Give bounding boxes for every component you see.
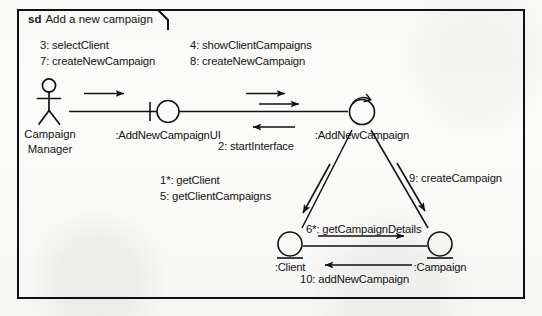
message-label-7: 7: createNewCampaign	[40, 53, 155, 69]
entity-campaign-icon	[427, 232, 453, 258]
actor-name-line1: Campaign	[14, 127, 86, 142]
message-label-2: 2: startInterface	[218, 139, 294, 154]
arrow-msg-1-5	[303, 164, 330, 213]
diagram-canvas: sdAdd a new campaign	[0, 0, 542, 316]
message-label-8: 8: createNewCampaign	[190, 53, 305, 69]
control-add-new-campaign-icon	[350, 94, 375, 124]
object-name-add-new-campaign: :AddNewCampaign	[307, 128, 417, 142]
message-label-4: 4: showClientCampaigns	[190, 37, 312, 53]
message-label-10: 10: addNewCampaign	[300, 272, 409, 287]
actor-campaign-manager-icon	[38, 79, 61, 124]
actor-name-line2: Manager	[14, 142, 86, 157]
message-label-9: 9: createCampaign	[409, 171, 502, 186]
message-label-6: 6*: getCampaignDetails	[306, 222, 421, 237]
object-name-client: :Client	[262, 260, 318, 274]
message-label-1: 1*: getClient	[160, 172, 220, 188]
object-name-add-new-campaign-ui: :AddNewCampaignUI	[108, 128, 228, 142]
boundary-add-new-campaign-ui-icon	[150, 101, 179, 123]
link-control-to-client	[302, 130, 352, 228]
object-name-campaign: :Campaign	[405, 260, 475, 274]
message-label-3: 3: selectClient	[40, 37, 109, 53]
message-label-5: 5: getClientCampaigns	[160, 188, 271, 204]
entity-client-icon	[277, 232, 303, 258]
